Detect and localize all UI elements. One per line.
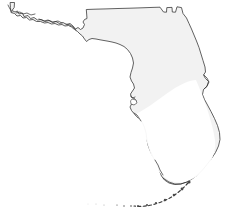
key-dot-7 bbox=[137, 205, 139, 207]
key-dot-4 bbox=[164, 199, 166, 201]
key-dot-9 bbox=[123, 205, 124, 206]
key-dot-2 bbox=[181, 188, 184, 191]
key-dot-8 bbox=[130, 205, 132, 207]
dry-tortugas-dot-2 bbox=[96, 204, 97, 205]
dry-tortugas-dot-1 bbox=[103, 204, 104, 205]
dry-tortugas-dot-3 bbox=[88, 204, 89, 205]
florida-map-svg bbox=[0, 0, 233, 223]
key-dot-3 bbox=[173, 194, 176, 197]
key-dot-10 bbox=[116, 204, 117, 205]
key-dot-1 bbox=[187, 180, 190, 183]
key-dot-5 bbox=[155, 202, 157, 204]
florida-map-figure: Florida bbox=[0, 0, 233, 223]
key-dot-6 bbox=[146, 204, 148, 206]
